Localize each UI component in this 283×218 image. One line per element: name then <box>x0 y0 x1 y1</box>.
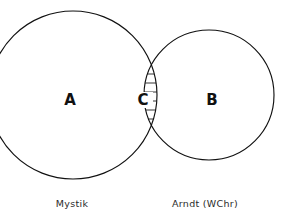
set-label-a: A <box>64 91 76 109</box>
intersection-label-c: C <box>137 91 148 109</box>
venn-diagram-canvas: A C B Mystik Arndt (WChr) <box>0 0 283 218</box>
caption-left-mystik: Mystik <box>56 198 89 209</box>
caption-right-arndt: Arndt (WChr) <box>172 198 238 209</box>
venn-diagram-figure: A C B Mystik Arndt (WChr) <box>0 0 283 218</box>
set-label-b: B <box>206 91 217 109</box>
